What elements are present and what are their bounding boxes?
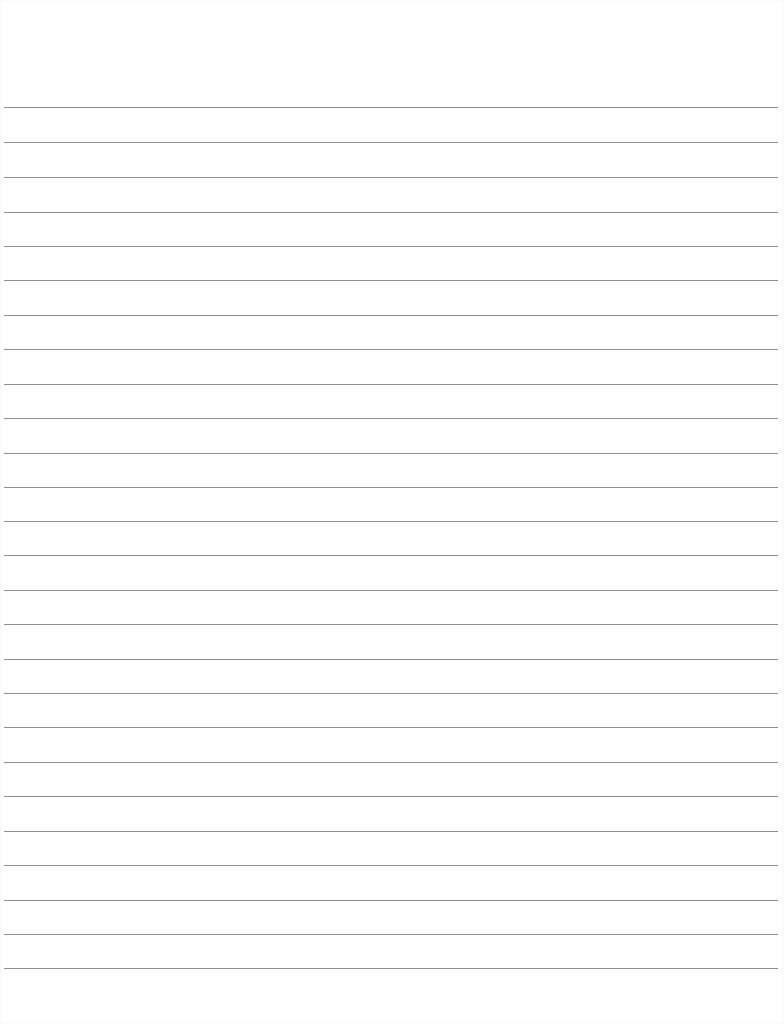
ruled-line bbox=[4, 453, 778, 454]
ruled-line bbox=[4, 590, 778, 591]
ruled-line bbox=[4, 968, 778, 969]
ruled-line bbox=[4, 693, 778, 694]
ruled-line bbox=[4, 246, 778, 247]
ruled-line bbox=[4, 280, 778, 281]
lined-paper-page bbox=[0, 0, 784, 1024]
ruled-line bbox=[4, 384, 778, 385]
ruled-line bbox=[4, 315, 778, 316]
ruled-line bbox=[4, 727, 778, 728]
ruled-line bbox=[4, 212, 778, 213]
ruled-line bbox=[4, 624, 778, 625]
ruled-line bbox=[4, 177, 778, 178]
ruled-line bbox=[4, 762, 778, 763]
ruled-line bbox=[4, 865, 778, 866]
ruled-line bbox=[4, 521, 778, 522]
ruled-line bbox=[4, 555, 778, 556]
ruled-line bbox=[4, 831, 778, 832]
ruled-line bbox=[4, 934, 778, 935]
ruled-line bbox=[4, 659, 778, 660]
ruled-line bbox=[4, 796, 778, 797]
ruled-line bbox=[4, 107, 778, 108]
ruled-line bbox=[4, 487, 778, 488]
ruled-line bbox=[4, 349, 778, 350]
ruled-line bbox=[4, 418, 778, 419]
ruled-line bbox=[4, 900, 778, 901]
ruled-line bbox=[4, 142, 778, 143]
